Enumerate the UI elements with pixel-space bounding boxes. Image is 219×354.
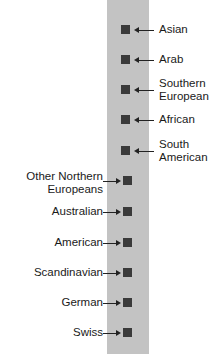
marker-square xyxy=(123,328,132,337)
label: Arab xyxy=(159,53,183,66)
label: Swiss xyxy=(73,326,103,339)
label: Southern European xyxy=(159,77,209,103)
label: African xyxy=(159,113,195,126)
arrow-line xyxy=(138,60,154,61)
label: Scandinavian xyxy=(34,266,103,279)
marker-square xyxy=(121,85,130,94)
marker-square xyxy=(123,176,132,185)
arrow-line xyxy=(138,90,154,91)
label: Other Northern Europeans xyxy=(26,170,103,196)
marker-square xyxy=(123,298,132,307)
label: American xyxy=(54,236,103,249)
marker-square xyxy=(121,25,130,34)
marker-square xyxy=(123,238,132,247)
arrow-right-icon xyxy=(116,330,121,336)
arrow-line xyxy=(103,243,117,244)
arrow-line xyxy=(138,151,154,152)
arrow-line xyxy=(138,120,154,121)
marker-square xyxy=(121,146,130,155)
arrow-line xyxy=(103,303,117,304)
arrow-line xyxy=(138,30,154,31)
arrow-line xyxy=(103,333,117,334)
arrow-line xyxy=(103,212,117,213)
arrow-right-icon xyxy=(116,300,121,306)
label: Asian xyxy=(159,23,188,36)
label: Australian xyxy=(52,205,103,218)
marker-square xyxy=(121,115,130,124)
marker-square xyxy=(123,207,132,216)
arrow-right-icon xyxy=(116,209,121,215)
label: German xyxy=(61,296,103,309)
label: South American xyxy=(159,138,208,164)
marker-square xyxy=(121,55,130,64)
marker-square xyxy=(123,268,132,277)
arrow-right-icon xyxy=(116,178,121,184)
arrow-right-icon xyxy=(116,240,121,246)
arrow-line xyxy=(103,273,117,274)
arrow-right-icon xyxy=(116,270,121,276)
arrow-line xyxy=(103,181,117,182)
